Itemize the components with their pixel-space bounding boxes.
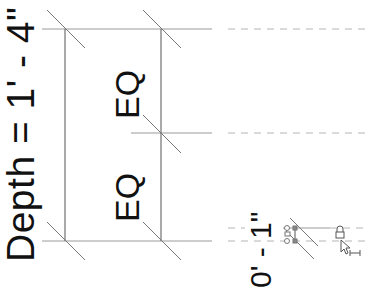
dimension-ticks [47,10,318,260]
small-dimension-label[interactable]: 0' - 1" [246,212,276,288]
eq-label-top[interactable]: EQ [110,70,144,119]
drawing-canvas[interactable] [0,0,365,294]
dashed-extension-lines [228,29,365,241]
dimension-lines[interactable] [65,29,295,241]
lock-cursor-icon [336,226,350,254]
dimension-icon [350,250,360,256]
reference-lines [42,29,330,241]
eq-label-bottom[interactable]: EQ [110,173,144,222]
depth-dimension-label[interactable]: Depth = 1' - 4" [1,7,40,262]
